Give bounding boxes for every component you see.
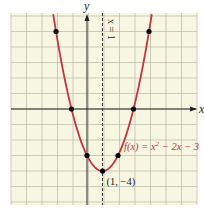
function-label-suffix: − 2x − 3 <box>159 141 199 152</box>
parabola-chart: x = 1 x y f(x) = x2 − 2x − 3 (1, −4) <box>0 0 204 214</box>
y-axis-label: y <box>83 0 90 13</box>
data-point <box>53 29 58 34</box>
data-point <box>84 153 89 158</box>
x-axis-label: x <box>198 102 204 116</box>
axis-of-symmetry-label: x = 1 <box>106 19 117 40</box>
function-label: f(x) = x2 − 2x − 3 <box>124 140 199 153</box>
data-point <box>146 29 151 34</box>
data-point <box>115 153 120 158</box>
data-point <box>69 106 74 111</box>
data-point <box>100 168 105 173</box>
data-point <box>131 106 136 111</box>
vertex-label: (1, −4) <box>107 176 136 188</box>
function-label-prefix: f(x) = x <box>124 141 156 153</box>
